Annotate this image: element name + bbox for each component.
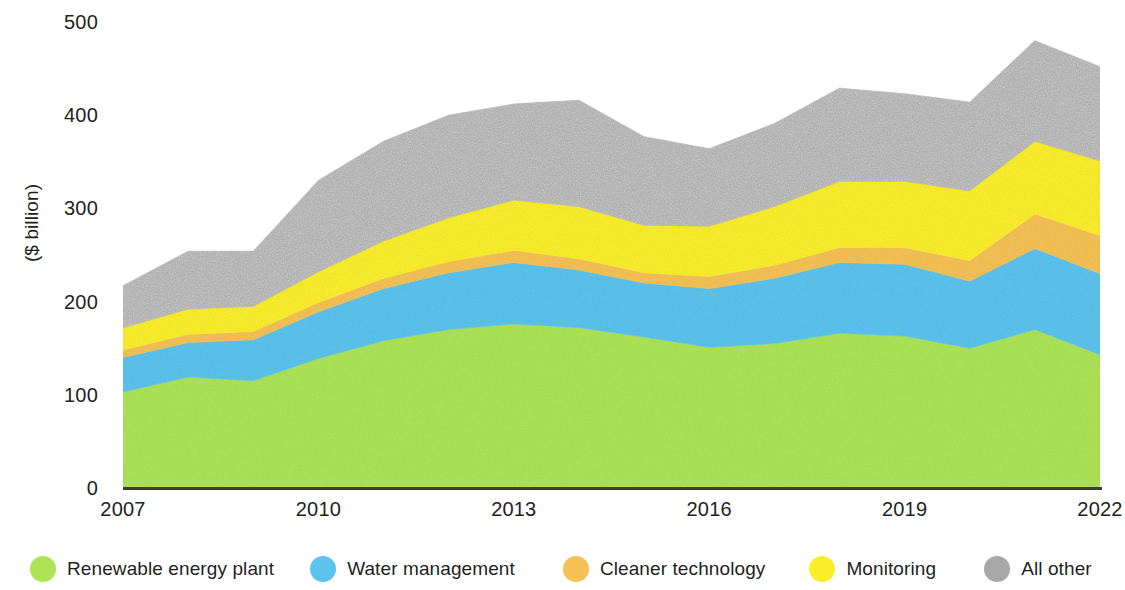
y-tick-0: 0	[28, 477, 98, 500]
x-tick-2010: 2010	[263, 498, 373, 521]
x-tick-2016: 2016	[654, 498, 764, 521]
legend-item-water-management[interactable]: Water management	[310, 556, 515, 582]
legend-label: Monitoring	[846, 558, 936, 580]
legend-item-cleaner-technology[interactable]: Cleaner technology	[563, 556, 766, 582]
y-tick-100: 100	[28, 383, 98, 406]
x-tick-2019: 2019	[850, 498, 960, 521]
legend-item-renewable-energy-plant[interactable]: Renewable energy plant	[30, 556, 274, 582]
y-tick-300: 300	[28, 197, 98, 220]
plot-area	[123, 22, 1100, 488]
chart-legend: Renewable energy plantWater managementCl…	[0, 548, 1125, 590]
series-areas	[123, 41, 1100, 488]
legend-label: Renewable energy plant	[67, 558, 274, 580]
y-tick-200: 200	[28, 290, 98, 313]
legend-item-monitoring[interactable]: Monitoring	[809, 556, 936, 582]
legend-item-all-other[interactable]: All other	[984, 556, 1092, 582]
stacked-area-chart: ($ billion) 0100200300400500	[0, 0, 1125, 590]
legend-label: All other	[1021, 558, 1092, 580]
circle-swatch-orange-icon	[563, 556, 589, 582]
circle-swatch-gray-icon	[984, 556, 1010, 582]
circle-swatch-blue-icon	[310, 556, 336, 582]
legend-label: Water management	[347, 558, 515, 580]
stacked-area-svg	[123, 22, 1100, 488]
x-tick-2013: 2013	[459, 498, 569, 521]
y-tick-400: 400	[28, 104, 98, 127]
x-tick-2007: 2007	[68, 498, 178, 521]
circle-swatch-green-icon	[30, 556, 56, 582]
x-tick-2022: 2022	[1045, 498, 1125, 521]
x-axis-tick-labels: 200720102013201620192022	[0, 498, 1125, 534]
legend-label: Cleaner technology	[600, 558, 766, 580]
circle-swatch-yellow-icon	[809, 556, 835, 582]
y-tick-500: 500	[28, 11, 98, 34]
x-axis-line	[123, 487, 1102, 490]
